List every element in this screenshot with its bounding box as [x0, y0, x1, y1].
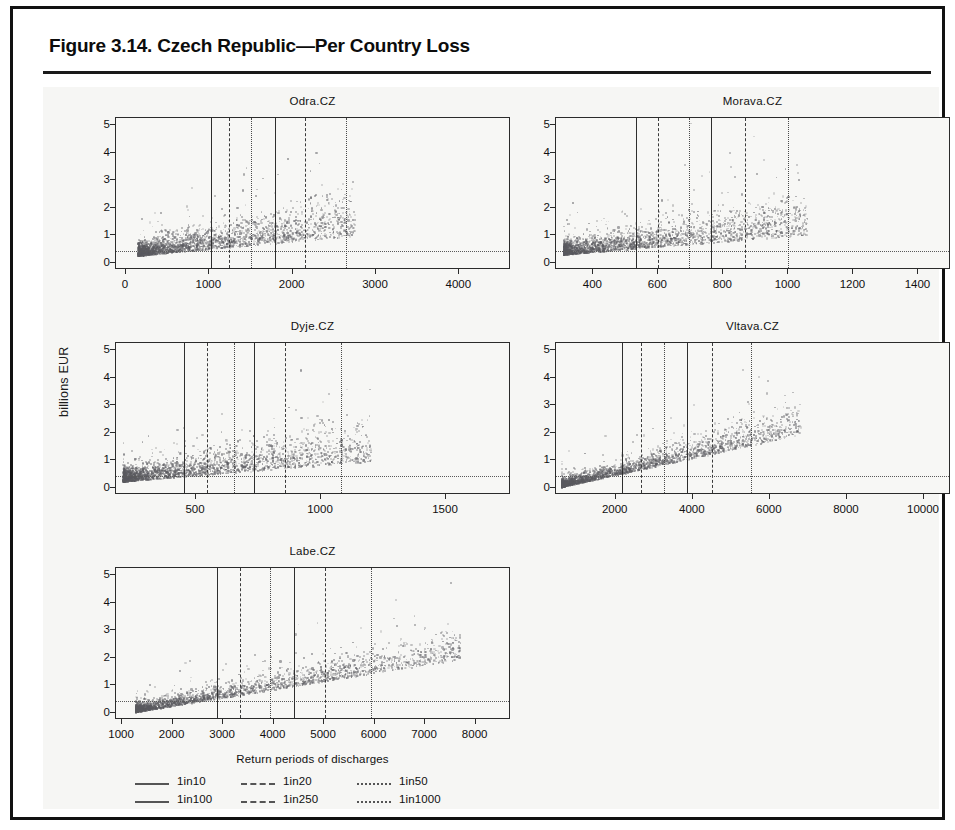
data-point	[794, 435, 796, 437]
data-point	[177, 693, 179, 695]
data-point	[739, 210, 741, 212]
data-point	[775, 206, 777, 208]
data-point	[376, 654, 378, 656]
data-point	[636, 434, 638, 436]
data-point	[411, 654, 413, 656]
x-tick-label: 600	[648, 278, 667, 290]
data-point	[363, 453, 365, 455]
data-point	[141, 460, 143, 462]
data-point	[283, 687, 285, 689]
data-point	[798, 221, 800, 223]
data-point	[648, 220, 650, 222]
x-tick-mark	[292, 269, 293, 274]
panel-title: Vltava.CZ	[555, 320, 950, 332]
data-point	[257, 218, 259, 220]
data-point	[217, 473, 219, 475]
data-point	[588, 481, 590, 483]
data-point	[707, 438, 709, 440]
data-point	[306, 460, 308, 462]
data-point	[257, 236, 259, 238]
data-point	[339, 200, 341, 202]
data-point	[251, 680, 253, 682]
data-point	[668, 453, 670, 455]
data-point	[360, 627, 362, 629]
data-point	[239, 471, 241, 473]
data-point	[794, 213, 796, 215]
data-point	[646, 462, 648, 464]
data-point	[123, 467, 125, 469]
data-point	[365, 445, 367, 447]
data-point	[713, 210, 715, 212]
data-point	[286, 237, 288, 239]
data-point	[666, 443, 668, 445]
data-point	[271, 440, 273, 442]
data-point	[599, 231, 601, 233]
data-point	[265, 230, 267, 232]
data-point	[138, 477, 140, 479]
data-point	[172, 245, 174, 247]
data-point	[626, 471, 628, 473]
y-tick-mark	[110, 404, 115, 405]
data-point	[276, 445, 278, 447]
data-point	[402, 664, 404, 666]
data-point	[318, 681, 320, 683]
data-point	[414, 662, 416, 664]
data-point	[732, 443, 734, 445]
legend-label: 1in1000	[399, 793, 441, 805]
data-point	[705, 430, 707, 432]
data-point	[307, 417, 309, 419]
data-point	[273, 434, 275, 436]
data-point	[729, 152, 731, 154]
legend-line-key-dashed	[241, 783, 275, 785]
data-point	[272, 662, 274, 664]
data-point	[195, 688, 197, 690]
data-point	[346, 457, 348, 459]
data-point	[218, 697, 220, 699]
data-point	[702, 243, 704, 245]
y-tick-mark	[110, 487, 115, 488]
data-point	[374, 666, 376, 668]
data-point	[672, 462, 674, 464]
data-point	[189, 696, 191, 698]
data-point	[441, 646, 443, 648]
data-point	[234, 693, 236, 695]
data-point	[238, 225, 240, 227]
data-point	[741, 193, 743, 195]
data-point	[441, 631, 443, 633]
return-period-line-1in100	[711, 118, 712, 268]
data-point	[202, 228, 204, 230]
data-point	[295, 455, 297, 457]
data-point	[123, 480, 125, 482]
data-point	[235, 682, 237, 684]
data-point	[330, 234, 332, 236]
x-tick-label: 2000	[279, 278, 305, 290]
data-point	[568, 450, 570, 452]
data-point	[735, 445, 737, 447]
data-point	[615, 240, 617, 242]
data-point	[675, 225, 677, 227]
data-point	[293, 446, 295, 448]
data-point	[693, 404, 695, 406]
data-point	[349, 658, 351, 660]
data-point	[366, 447, 368, 449]
data-point	[300, 201, 302, 203]
data-point	[337, 207, 339, 209]
data-point	[333, 448, 335, 450]
data-point	[756, 235, 758, 237]
data-point	[628, 461, 630, 463]
data-point	[561, 461, 563, 463]
data-point	[185, 234, 187, 236]
data-point	[359, 441, 361, 443]
data-point	[277, 676, 279, 678]
data-point	[369, 455, 371, 457]
legend-item-1in250: 1in250	[241, 793, 345, 809]
data-point	[612, 229, 614, 231]
data-point	[737, 216, 739, 218]
data-point	[450, 582, 452, 584]
data-point	[288, 407, 290, 409]
data-point	[590, 234, 592, 236]
data-point	[123, 453, 125, 455]
legend-line-key-solid	[135, 801, 169, 803]
data-point	[223, 465, 225, 467]
data-point	[239, 439, 241, 441]
